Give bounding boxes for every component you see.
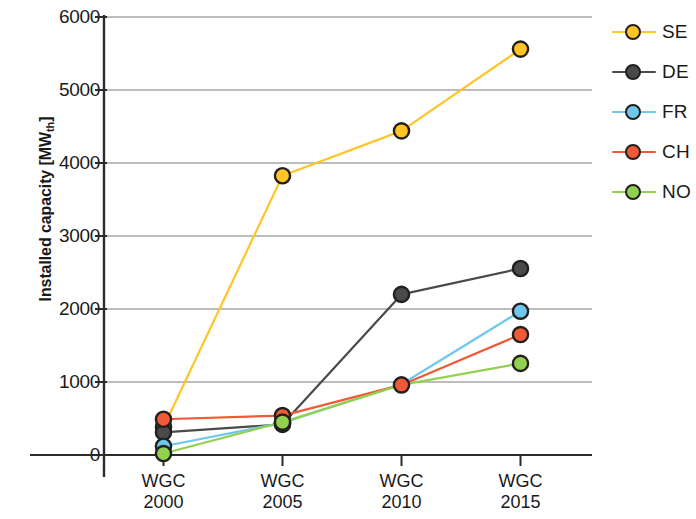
legend-marker-icon (612, 184, 656, 200)
x-tick-label: WGC2015 (466, 471, 576, 513)
data-point-no-1 (275, 415, 290, 430)
series-markers (156, 42, 528, 462)
legend-label: SE (662, 21, 688, 43)
data-point-ch-3 (513, 327, 528, 342)
series-line-ch (164, 335, 521, 420)
x-tick-label-line: 2015 (466, 492, 576, 513)
legend-item-se[interactable]: SE (612, 20, 688, 44)
x-tick-label-line: WGC (109, 471, 219, 492)
legend-dot-icon (625, 104, 641, 120)
data-point-se-1 (275, 168, 290, 183)
data-point-de-3 (513, 261, 528, 276)
x-tick-label-line: WGC (228, 471, 338, 492)
legend-marker-icon (612, 144, 656, 160)
x-tick-label: WGC2010 (347, 471, 457, 513)
x-tick-label: WGC2000 (109, 471, 219, 513)
legend-dot-icon (625, 184, 641, 200)
data-point-fr-3 (513, 304, 528, 319)
series-lines (164, 49, 521, 453)
x-tick-label: WGC2005 (228, 471, 338, 513)
legend-marker-icon (612, 104, 656, 120)
data-point-no-3 (513, 356, 528, 371)
x-tick-label-line: WGC (466, 471, 576, 492)
series-line-fr (164, 311, 521, 446)
legend-label: DE (662, 61, 689, 83)
series-line-no (164, 363, 521, 453)
series-line-de (164, 268, 521, 432)
legend-dot-icon (625, 64, 641, 80)
legend-marker-icon (612, 24, 656, 40)
x-tick-label-line: 2010 (347, 492, 457, 513)
data-point-ch-2 (394, 377, 409, 392)
data-point-se-2 (394, 123, 409, 138)
x-tick-label-line: WGC (347, 471, 457, 492)
x-tick-label-line: 2005 (228, 492, 338, 513)
legend-dot-icon (625, 24, 641, 40)
chart-legend: SEDEFRCHNO (612, 0, 696, 200)
legend-marker-icon (612, 64, 656, 80)
legend-item-no[interactable]: NO (612, 180, 691, 204)
chart-figure: Installed capacity [MWth] 01000200030004… (0, 0, 696, 519)
x-tick-label-line: 2000 (109, 492, 219, 513)
legend-label: CH (662, 141, 690, 163)
legend-item-de[interactable]: DE (612, 60, 689, 84)
data-point-ch-0 (156, 412, 171, 427)
legend-label: NO (662, 181, 691, 203)
chart-plot-area (0, 0, 696, 519)
data-point-de-2 (394, 287, 409, 302)
series-line-se (164, 49, 521, 427)
data-point-se-3 (513, 42, 528, 57)
legend-item-fr[interactable]: FR (612, 100, 688, 124)
legend-label: FR (662, 101, 688, 123)
legend-dot-icon (625, 144, 641, 160)
data-point-no-0 (156, 446, 171, 461)
legend-item-ch[interactable]: CH (612, 140, 690, 164)
